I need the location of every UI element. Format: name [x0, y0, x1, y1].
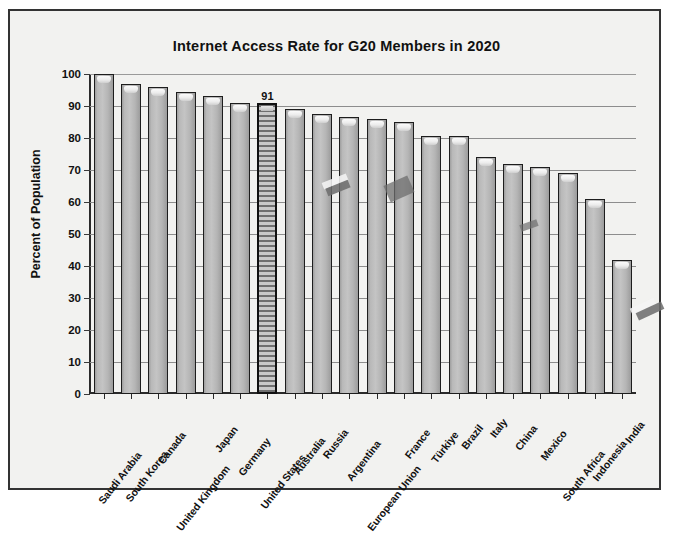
- tick-mark: [84, 138, 90, 139]
- x-axis-tick: [158, 394, 159, 399]
- bar-china[interactable]: [503, 164, 523, 394]
- x-axis-tick: [131, 394, 132, 399]
- bar-mexico[interactable]: [530, 167, 550, 394]
- bar-united-states[interactable]: 91: [257, 103, 277, 394]
- bar-canada[interactable]: [148, 87, 168, 394]
- bar-france[interactable]: [394, 122, 414, 394]
- y-axis-tick-label: 30: [68, 292, 81, 304]
- tick-mark: [84, 362, 90, 363]
- x-axis-tick: [377, 394, 378, 399]
- x-axis-label-brazil: Brazil: [458, 422, 485, 451]
- y-axis-tick-label: 70: [68, 164, 81, 176]
- bar-india[interactable]: [612, 260, 632, 394]
- x-axis-label-united-kingdom: United Kingdom: [173, 463, 232, 533]
- bar-brazil[interactable]: [449, 136, 469, 394]
- bar-italy[interactable]: [476, 157, 496, 394]
- bar-european-union[interactable]: [367, 119, 387, 394]
- y-axis-tick-label: 80: [68, 132, 81, 144]
- x-axis-tick: [322, 394, 323, 399]
- bar-south-africa[interactable]: [558, 173, 578, 394]
- tick-mark: [84, 394, 90, 395]
- x-axis-line: [90, 392, 636, 394]
- x-axis-tick: [295, 394, 296, 399]
- gridline: [90, 202, 636, 203]
- x-axis-label-italy: Italy: [487, 416, 509, 440]
- x-axis-label-argentina: Argentina: [344, 438, 383, 483]
- bar-indonesia[interactable]: [585, 199, 605, 394]
- x-axis-label-india: India: [623, 419, 647, 445]
- y-axis-tick-label: 10: [68, 356, 81, 368]
- x-axis-tick: [240, 394, 241, 399]
- chart-title: Internet Access Rate for G20 Members in …: [10, 38, 663, 54]
- x-axis-tick: [513, 394, 514, 399]
- gridline: [90, 74, 636, 75]
- x-axis-tick: [104, 394, 105, 399]
- tick-mark: [84, 170, 90, 171]
- x-axis-tick: [568, 394, 569, 399]
- bar-russia[interactable]: [312, 114, 332, 394]
- bar-argentina[interactable]: [339, 117, 359, 394]
- x-axis-label-european-union: European Union: [364, 463, 423, 533]
- x-axis-tick: [431, 394, 432, 399]
- x-axis-label-china: China: [513, 423, 540, 453]
- x-axis-label-t-rkiye: Türkiye: [429, 429, 461, 465]
- x-axis-tick: [213, 394, 214, 399]
- plot-area: 0102030405060708090100 91 Saudi ArabiaSo…: [90, 74, 636, 394]
- x-axis-tick: [486, 394, 487, 399]
- bar-japan[interactable]: [203, 96, 223, 394]
- chart-frame: Internet Access Rate for G20 Members in …: [8, 9, 661, 490]
- y-axis-tick-label: 0: [75, 388, 81, 400]
- gridline: [90, 138, 636, 139]
- tick-mark: [84, 266, 90, 267]
- x-axis-label-japan: Japan: [212, 424, 240, 455]
- y-axis-tick-label: 100: [62, 68, 81, 80]
- gridline: [90, 266, 636, 267]
- y-axis-tick-label: 90: [68, 100, 81, 112]
- x-axis-tick: [349, 394, 350, 399]
- tick-mark: [84, 298, 90, 299]
- y-axis-tick-label: 40: [68, 260, 81, 272]
- tick-mark: [84, 234, 90, 235]
- y-axis-tick-label: 60: [68, 196, 81, 208]
- x-axis-tick: [404, 394, 405, 399]
- bar-south-korea[interactable]: [121, 84, 141, 394]
- gridline: [90, 170, 636, 171]
- gridline: [90, 234, 636, 235]
- bar-value-label: 91: [261, 90, 273, 102]
- tick-mark: [84, 330, 90, 331]
- bar-t-rkiye[interactable]: [421, 136, 441, 394]
- tick-mark: [84, 106, 90, 107]
- bar-australia[interactable]: [285, 109, 305, 394]
- bar-saudi-arabia[interactable]: [94, 74, 114, 394]
- gridline: [90, 298, 636, 299]
- y-axis-tick-label: 50: [68, 228, 81, 240]
- x-axis-tick: [595, 394, 596, 399]
- gridline: [90, 362, 636, 363]
- x-axis-label-mexico: Mexico: [538, 428, 569, 463]
- tick-mark: [84, 74, 90, 75]
- y-axis-tick-label: 20: [68, 324, 81, 336]
- gridline: [90, 330, 636, 331]
- bar-united-kingdom[interactable]: [176, 92, 196, 394]
- x-axis-tick: [540, 394, 541, 399]
- x-axis-tick: [186, 394, 187, 399]
- x-axis-tick: [622, 394, 623, 399]
- gridline: [90, 106, 636, 107]
- bar-germany[interactable]: [230, 103, 250, 394]
- x-axis-label-france: France: [402, 427, 432, 461]
- x-axis-tick: [267, 394, 268, 399]
- x-axis-label-germany: Germany: [236, 435, 273, 478]
- x-axis-tick: [459, 394, 460, 399]
- y-axis-title: Percent of Population: [29, 114, 43, 314]
- tick-mark: [84, 202, 90, 203]
